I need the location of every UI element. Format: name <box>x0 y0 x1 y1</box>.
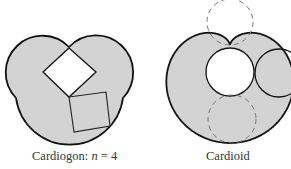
cardioid-diagram <box>166 0 291 143</box>
diagram-canvas <box>0 0 291 169</box>
caption-cardiogon: Cardiogon: n = 4 <box>32 149 117 164</box>
caption-cardiogon-value: = 4 <box>98 149 118 163</box>
caption-cardiogon-text: Cardiogon: <box>32 149 91 163</box>
caption-cardioid: Cardioid <box>206 149 250 164</box>
fixed-circle <box>206 48 254 96</box>
figure: Cardiogon: n = 4 Cardioid <box>0 0 291 169</box>
cardiogon-diagram <box>6 35 133 144</box>
